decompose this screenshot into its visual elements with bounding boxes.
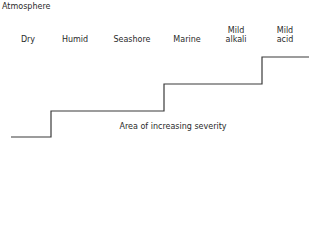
- severity-annotation: Area of increasing severity: [119, 122, 226, 131]
